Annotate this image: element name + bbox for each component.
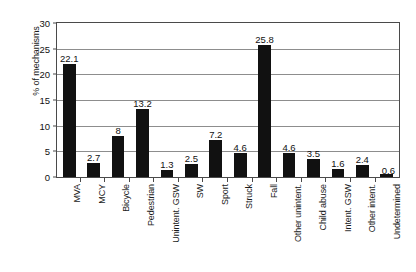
- plot-area: 051015202530 22.12.7813.21.32.57.24.625.…: [56, 22, 400, 178]
- bar[interactable]: 1.6: [332, 169, 345, 177]
- x-tick: [302, 178, 327, 182]
- bar-value-label: 3.5: [307, 148, 320, 159]
- x-category-label: Undetermined: [392, 184, 402, 239]
- x-tick: [351, 178, 376, 182]
- x-tick: [203, 178, 228, 182]
- bar[interactable]: 4.6: [234, 153, 247, 177]
- x-tick: [179, 178, 204, 182]
- bar[interactable]: 3.5: [307, 159, 320, 177]
- bar-value-label: 4.6: [282, 142, 295, 153]
- bar[interactable]: 2.7: [87, 163, 100, 177]
- x-label-cell: SW: [179, 184, 204, 270]
- bar[interactable]: 4.6: [283, 153, 296, 177]
- bar-value-label: 0.6: [382, 165, 395, 176]
- bar-slot: 4.6: [228, 23, 252, 177]
- bar-value-label: 25.8: [255, 34, 274, 45]
- bar-value-label: 7.2: [209, 129, 222, 140]
- x-axis-labels: MVAMCYBicyclePedestrianUnintent. GSWSWSp…: [56, 184, 400, 270]
- x-label-cell: Unintent. GSW: [154, 184, 179, 270]
- bar-slot: 1.6: [326, 23, 350, 177]
- x-label-cell: Child abuse: [302, 184, 327, 270]
- bar[interactable]: 13.2: [136, 109, 149, 177]
- bar[interactable]: 2.4: [356, 165, 369, 177]
- y-tick-label: 30: [16, 18, 57, 29]
- x-tick: [277, 178, 302, 182]
- x-label-cell: Other intent.: [351, 184, 376, 270]
- bar[interactable]: 22.1: [63, 64, 76, 177]
- y-tick-label: 20: [16, 69, 57, 80]
- bar[interactable]: 7.2: [209, 140, 222, 177]
- x-label-cell: Pedestrian: [130, 184, 155, 270]
- x-label-cell: Sport: [203, 184, 228, 270]
- bar-slot: 2.7: [81, 23, 105, 177]
- x-tick: [228, 178, 253, 182]
- bar-slot: 1.3: [155, 23, 179, 177]
- bar[interactable]: 25.8: [258, 45, 271, 177]
- bar-slot: 25.8: [252, 23, 276, 177]
- bar[interactable]: 1.3: [161, 170, 174, 177]
- x-label-cell: Intent. GSW: [326, 184, 351, 270]
- y-tick-label: 5: [16, 146, 57, 157]
- x-label-cell: Undetermined: [376, 184, 401, 270]
- bar-value-label: 8: [115, 125, 120, 136]
- x-tick: [56, 178, 81, 182]
- bar-value-label: 2.4: [356, 154, 369, 165]
- x-label-cell: MVA: [56, 184, 81, 270]
- bar-slot: 2.4: [350, 23, 374, 177]
- y-tick-label: 25: [16, 43, 57, 54]
- bar-slot: 22.1: [57, 23, 81, 177]
- x-tick: [253, 178, 278, 182]
- x-tick: [81, 178, 106, 182]
- bar-value-label: 13.2: [133, 98, 152, 109]
- x-label-cell: Struck: [228, 184, 253, 270]
- bars-group: 22.12.7813.21.32.57.24.625.84.63.51.62.4…: [57, 23, 399, 177]
- bar-chart: % of mechanisms 051015202530 22.12.7813.…: [0, 0, 416, 272]
- bar-slot: 0.6: [374, 23, 398, 177]
- x-label-cell: Bicycle: [105, 184, 130, 270]
- bar-value-label: 1.6: [331, 158, 344, 169]
- bar-slot: 2.5: [179, 23, 203, 177]
- x-tick: [326, 178, 351, 182]
- bar-value-label: 1.3: [160, 159, 173, 170]
- x-tick: [105, 178, 130, 182]
- bar-value-label: 2.7: [87, 152, 100, 163]
- y-tick-label: 15: [16, 95, 57, 106]
- x-label-cell: Fall: [253, 184, 278, 270]
- x-label-cell: MCY: [81, 184, 106, 270]
- bar[interactable]: 2.5: [185, 164, 198, 177]
- x-tick: [154, 178, 179, 182]
- bar-slot: 4.6: [277, 23, 301, 177]
- x-label-cell: Other unintent.: [277, 184, 302, 270]
- y-tick-label: 10: [16, 120, 57, 131]
- x-tick: [376, 178, 401, 182]
- bar[interactable]: 0.6: [380, 174, 393, 177]
- bar-slot: 7.2: [204, 23, 228, 177]
- bar-value-label: 22.1: [60, 53, 79, 64]
- x-axis-ticks: [56, 178, 400, 182]
- bar-value-label: 4.6: [234, 142, 247, 153]
- bar-value-label: 2.5: [185, 153, 198, 164]
- x-tick: [130, 178, 155, 182]
- bar-slot: 13.2: [130, 23, 154, 177]
- bar-slot: 8: [106, 23, 130, 177]
- bar-slot: 3.5: [301, 23, 325, 177]
- y-tick-label: 0: [16, 172, 57, 183]
- bar[interactable]: 8: [112, 136, 125, 177]
